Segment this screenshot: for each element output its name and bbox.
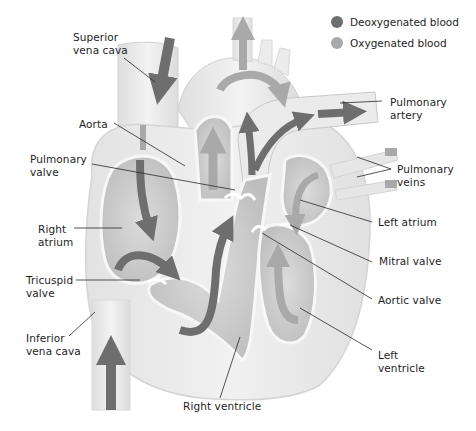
legend-item-deoxygenated: Deoxygenated blood — [331, 11, 459, 32]
deoxygenated-swatch-icon — [331, 16, 343, 28]
label-inferior-vena-cava: Inferior vena cava — [26, 332, 81, 358]
left-atrium-shape — [282, 156, 331, 226]
label-left-atrium: Left atrium — [378, 216, 437, 229]
oxygenated-swatch-icon — [331, 37, 343, 49]
label-tricuspid-valve: Tricuspid valve — [26, 274, 73, 300]
label-superior-vena-cava: Superior vena cava — [73, 31, 128, 57]
label-pulmonary-valve: Pulmonary valve — [30, 153, 87, 179]
label-pulmonary-veins: Pulmonary veins — [397, 163, 454, 189]
label-right-ventricle: Right ventricle — [183, 400, 261, 413]
legend-label: Oxygenated blood — [350, 37, 447, 49]
legend: Deoxygenated blood Oxygenated blood — [331, 11, 459, 53]
label-left-ventricle: Left ventricle — [378, 349, 425, 375]
label-aortic-valve: Aortic valve — [378, 294, 441, 307]
label-pulmonary-artery: Pulmonary artery — [390, 96, 447, 122]
legend-label: Deoxygenated blood — [350, 16, 459, 28]
legend-item-oxygenated: Oxygenated blood — [331, 32, 459, 53]
label-right-atrium: Right atrium — [38, 223, 73, 249]
label-mitral-valve: Mitral valve — [379, 255, 442, 268]
left-ventricle-shape — [259, 225, 316, 343]
label-aorta: Aorta — [79, 118, 108, 131]
heart-diagram: Superior vena cava Aorta Pulmonary valve… — [0, 0, 476, 431]
